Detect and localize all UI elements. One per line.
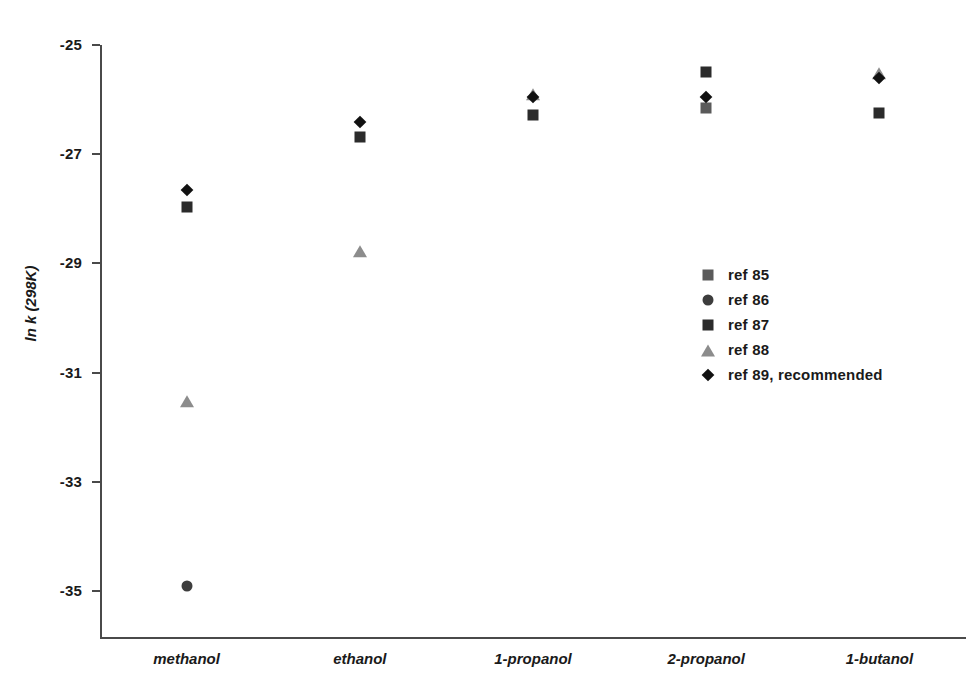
x-axis-category-label: 1-butanol <box>846 650 914 667</box>
x-axis-category-label: 1-propanol <box>494 650 572 667</box>
legend-item[interactable]: ref 86 <box>700 287 883 312</box>
data-point <box>701 102 712 113</box>
y-axis-tick <box>92 44 100 46</box>
legend-item-label: ref 89, recommended <box>728 366 883 383</box>
legend-marker-icon <box>700 292 716 308</box>
data-point <box>180 395 194 407</box>
data-point <box>354 132 365 143</box>
legend-item-label: ref 85 <box>728 266 769 283</box>
data-point <box>180 184 193 197</box>
legend-item-label: ref 88 <box>728 341 769 358</box>
data-point <box>353 116 366 129</box>
data-point <box>353 245 367 257</box>
chart-legend: ref 85ref 86ref 87ref 88ref 89, recommen… <box>700 262 883 387</box>
y-axis-tick <box>92 481 100 483</box>
legend-item[interactable]: ref 88 <box>700 337 883 362</box>
x-axis-category-label: 2-propanol <box>667 650 745 667</box>
x-axis-line <box>100 637 966 639</box>
legend-item[interactable]: ref 85 <box>700 262 883 287</box>
y-axis-tick-label: -25 <box>20 37 82 52</box>
legend-item[interactable]: ref 87 <box>700 312 883 337</box>
y-axis-tick-label: -33 <box>20 474 82 489</box>
data-point <box>181 202 192 213</box>
data-point <box>181 580 192 591</box>
y-axis-tick <box>92 262 100 264</box>
y-axis-tick <box>92 153 100 155</box>
data-point <box>874 108 885 119</box>
data-point <box>701 67 712 78</box>
legend-marker-icon <box>700 342 716 358</box>
scatter-chart: -25-27-29-31-33-35 ln k (298K) methanole… <box>0 0 979 696</box>
y-axis-tick-label: -27 <box>20 146 82 161</box>
legend-item-label: ref 86 <box>728 291 769 308</box>
legend-marker-icon <box>700 367 716 383</box>
legend-item[interactable]: ref 89, recommended <box>700 362 883 387</box>
y-axis-tick-label: -35 <box>20 583 82 598</box>
x-axis-category-label: ethanol <box>333 650 386 667</box>
y-axis-line <box>100 45 102 638</box>
x-axis-category-label: methanol <box>153 650 220 667</box>
legend-marker-icon <box>700 317 716 333</box>
y-axis-tick <box>92 590 100 592</box>
legend-marker-icon <box>700 267 716 283</box>
y-axis-title: ln k (298K) <box>22 204 39 404</box>
y-axis-tick <box>92 372 100 374</box>
legend-item-label: ref 87 <box>728 316 769 333</box>
data-point <box>528 109 539 120</box>
